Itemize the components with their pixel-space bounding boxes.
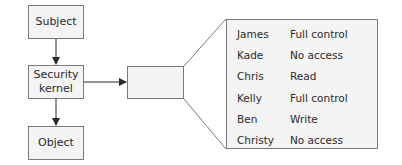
access-list-box: [127, 66, 184, 99]
kernel-label-line1: Security: [33, 68, 78, 82]
user-name: Kelly: [227, 92, 290, 104]
zoom-line-top: [184, 19, 226, 66]
permission: Read: [290, 70, 377, 82]
subject-label: Subject: [35, 15, 76, 29]
user-name: Christy: [227, 134, 290, 146]
permission: No access: [290, 134, 377, 146]
permission: No access: [290, 49, 377, 61]
security-kernel-box: Security kernel: [28, 65, 84, 99]
user-name: James: [227, 28, 290, 40]
kernel-label-line2: kernel: [33, 82, 78, 96]
user-name: Chris: [227, 70, 290, 82]
permission: Write: [290, 113, 377, 125]
user-name: Ben: [227, 113, 290, 125]
subject-box: Subject: [28, 5, 84, 39]
table-row: James Full control: [227, 23, 377, 44]
table-row: Chris Read: [227, 66, 377, 87]
zoom-line-bottom: [184, 99, 226, 149]
permission: Full control: [290, 92, 377, 104]
object-label: Object: [38, 136, 74, 150]
permission: Full control: [290, 28, 377, 40]
table-row: Kade No access: [227, 44, 377, 65]
table-row: Kelly Full control: [227, 87, 377, 108]
object-box: Object: [28, 126, 84, 160]
table-row: Christy No access: [227, 129, 377, 150]
access-control-table: James Full control Kade No access Chris …: [226, 19, 378, 149]
user-name: Kade: [227, 49, 290, 61]
table-row: Ben Write: [227, 108, 377, 129]
